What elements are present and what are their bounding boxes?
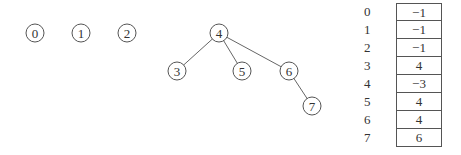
svg-text:2: 2 xyxy=(124,26,131,41)
node-3: 3 xyxy=(168,62,186,80)
node-2: 2 xyxy=(118,24,136,42)
row-value: 4 xyxy=(396,93,442,111)
row-value: 4 xyxy=(396,111,442,129)
parent-array-table: 0−1 1−1 2−1 34 4−3 54 64 76 xyxy=(364,3,442,147)
edge-4-6 xyxy=(219,33,289,71)
node-0: 0 xyxy=(26,24,44,42)
table-row: 1−1 xyxy=(364,21,442,39)
row-index: 5 xyxy=(364,94,396,110)
svg-text:0: 0 xyxy=(32,26,39,41)
row-index: 4 xyxy=(364,76,396,92)
svg-text:7: 7 xyxy=(309,99,316,114)
node-4: 4 xyxy=(210,24,228,42)
node-1: 1 xyxy=(72,24,90,42)
row-index: 1 xyxy=(364,22,396,38)
svg-text:3: 3 xyxy=(174,64,181,79)
node-7: 7 xyxy=(303,97,321,115)
row-index: 2 xyxy=(364,40,396,56)
row-value: −1 xyxy=(396,3,442,21)
row-index: 0 xyxy=(364,4,396,20)
row-value: −1 xyxy=(396,21,442,39)
row-index: 3 xyxy=(364,58,396,74)
row-value: 4 xyxy=(396,57,442,75)
table-row: 0−1 xyxy=(364,3,442,21)
node-5: 5 xyxy=(233,62,251,80)
table-row: 76 xyxy=(364,129,442,147)
svg-text:1: 1 xyxy=(78,26,85,41)
table-row: 64 xyxy=(364,111,442,129)
row-value: −1 xyxy=(396,39,442,57)
table-row: 2−1 xyxy=(364,39,442,57)
row-index: 6 xyxy=(364,112,396,128)
table-row: 34 xyxy=(364,57,442,75)
svg-text:5: 5 xyxy=(239,64,246,79)
row-value: −3 xyxy=(396,75,442,93)
row-index: 7 xyxy=(364,130,396,146)
node-6: 6 xyxy=(280,62,298,80)
svg-text:6: 6 xyxy=(286,64,293,79)
table-row: 54 xyxy=(364,93,442,111)
svg-text:4: 4 xyxy=(216,26,223,41)
row-value: 6 xyxy=(396,129,442,147)
table-row: 4−3 xyxy=(364,75,442,93)
